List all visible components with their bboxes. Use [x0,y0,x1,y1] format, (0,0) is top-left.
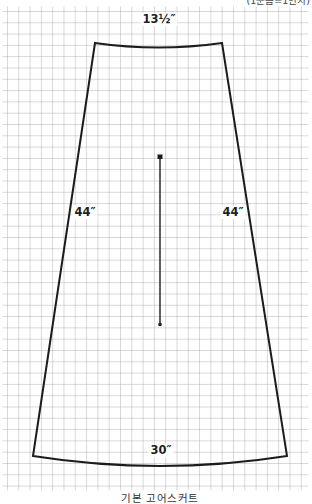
hem-measurement-label: 30″ [148,444,173,457]
right-side-measurement-label: 44″ [220,206,245,219]
pattern-caption: 기본 고어스커트 [121,490,198,504]
left-side-measurement-label: 44″ [72,206,97,219]
pattern-sheet: 13½″ 44″ 44″ 30″ (1눈금=1인치) 기본 고어스커트 [0,0,312,504]
inch-grid [3,7,309,491]
scale-note: (1눈금=1인치) [247,0,310,7]
waist-measurement-label: 13½″ [140,13,177,26]
gored-skirt-pattern-drawing [0,0,312,504]
